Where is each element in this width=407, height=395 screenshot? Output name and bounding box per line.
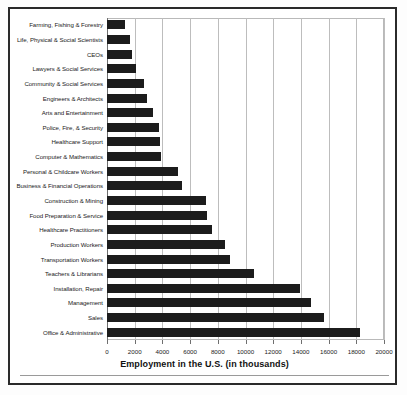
bar[interactable] — [107, 284, 300, 293]
axis-tick-label: 6000 — [183, 348, 197, 356]
bar[interactable] — [107, 35, 130, 44]
bar-row[interactable] — [107, 267, 384, 281]
bar[interactable] — [107, 269, 254, 278]
category-label: Healthcare Practitioners — [39, 226, 103, 233]
x-axis-tick-labels: 0200040006000800010000120001400016000180… — [107, 343, 385, 355]
x-axis-title: Employment in the U.S. (in thousands) — [10, 359, 399, 369]
bar[interactable] — [107, 211, 207, 220]
bar-row[interactable] — [107, 121, 384, 135]
axis-tick-label: 0 — [105, 348, 108, 356]
bar-row[interactable] — [107, 135, 384, 149]
bar[interactable] — [107, 20, 125, 29]
bar[interactable] — [107, 240, 225, 249]
bar[interactable] — [107, 167, 178, 176]
axis-title-underline — [20, 375, 389, 376]
bar[interactable] — [107, 64, 136, 73]
category-label: Teachers & Librarians — [45, 270, 103, 277]
category-label: Farming, Fishing & Forestry — [29, 21, 103, 28]
bar-row[interactable] — [107, 194, 384, 208]
axis-tick-label: 18000 — [348, 348, 365, 356]
bar-row[interactable] — [107, 253, 384, 267]
bar[interactable] — [107, 94, 147, 103]
category-label: CEOs — [87, 51, 103, 58]
bar[interactable] — [107, 313, 324, 322]
bar[interactable] — [107, 328, 360, 337]
bar-row[interactable] — [107, 48, 384, 62]
bar[interactable] — [107, 152, 161, 161]
category-label: Life, Physical & Social Scientists — [17, 36, 103, 43]
category-label: Construction & Mining — [44, 197, 103, 204]
axis-tick-label: 4000 — [156, 348, 170, 356]
category-label: Community & Social Services — [24, 80, 103, 87]
axis-tick-label: 12000 — [265, 348, 282, 356]
bar-row[interactable] — [107, 165, 384, 179]
category-label: Police, Fire, & Security — [43, 124, 103, 131]
gridline — [384, 18, 385, 340]
bars-container — [107, 18, 384, 340]
bar-row[interactable] — [107, 33, 384, 47]
category-label: Engineers & Architects — [43, 95, 103, 102]
category-label: Food Preparation & Service — [29, 212, 103, 219]
category-label: Sales — [88, 314, 103, 321]
bar-row[interactable] — [107, 238, 384, 252]
category-label: Personal & Childcare Workers — [23, 168, 103, 175]
category-label: Arts and Entertainment — [42, 109, 103, 116]
bar-row[interactable] — [107, 326, 384, 340]
category-label: Business & Financial Operations — [16, 182, 103, 189]
chart-frame: Farming, Fishing & ForestryLife, Physica… — [8, 7, 397, 385]
category-label: Computer & Mathematics — [35, 153, 103, 160]
category-label: Transportation Workers — [41, 256, 103, 263]
chart-figure: Farming, Fishing & ForestryLife, Physica… — [0, 0, 407, 395]
axis-tick-label: 2000 — [128, 348, 142, 356]
bar-row[interactable] — [107, 106, 384, 120]
bar[interactable] — [107, 298, 311, 307]
bar[interactable] — [107, 225, 212, 234]
category-label: Lawyers & Social Services — [32, 65, 103, 72]
category-label: Production Workers — [51, 241, 104, 248]
axis-tick-label: 16000 — [320, 348, 337, 356]
bar[interactable] — [107, 79, 144, 88]
category-label: Installation, Repair — [54, 285, 103, 292]
bar-row[interactable] — [107, 92, 384, 106]
bar-row[interactable] — [107, 77, 384, 91]
axis-tick-label: 14000 — [292, 348, 309, 356]
bar-row[interactable] — [107, 179, 384, 193]
axis-tick-label: 8000 — [211, 348, 225, 356]
bar[interactable] — [107, 137, 160, 146]
bar-row[interactable] — [107, 311, 384, 325]
bar-row[interactable] — [107, 282, 384, 296]
bar-row[interactable] — [107, 62, 384, 76]
axis-tick-label: 20000 — [375, 348, 392, 356]
category-label: Management — [68, 299, 103, 306]
bar-row[interactable] — [107, 296, 384, 310]
bar[interactable] — [107, 123, 159, 132]
bar-row[interactable] — [107, 18, 384, 32]
category-label: Office & Administrative — [43, 329, 103, 336]
category-axis-labels: Farming, Fishing & ForestryLife, Physica… — [10, 18, 103, 340]
bar[interactable] — [107, 255, 230, 264]
bar[interactable] — [107, 108, 153, 117]
bar-row[interactable] — [107, 209, 384, 223]
axis-tick-label: 10000 — [237, 348, 254, 356]
chart-plot-area: Farming, Fishing & ForestryLife, Physica… — [10, 9, 399, 387]
bar[interactable] — [107, 181, 182, 190]
bar[interactable] — [107, 196, 206, 205]
bar[interactable] — [107, 50, 132, 59]
bar-row[interactable] — [107, 223, 384, 237]
bar-row[interactable] — [107, 150, 384, 164]
category-label: Healthcare Support — [51, 138, 103, 145]
